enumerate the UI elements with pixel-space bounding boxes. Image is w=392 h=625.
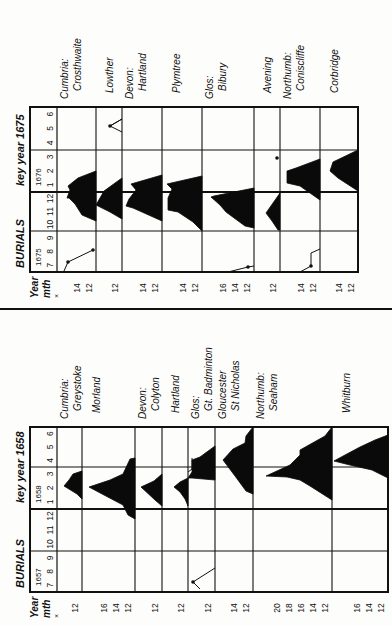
burial-area <box>67 171 96 221</box>
parish-label: Seaham <box>268 374 279 411</box>
month-label: 3 <box>45 471 55 476</box>
county-label: Cumbria: <box>59 58 70 99</box>
parish-label: Hartland <box>170 375 181 413</box>
burial-area <box>167 176 202 231</box>
parish-label: Corbridge <box>329 49 340 93</box>
y-tick-label: 12 <box>70 603 80 613</box>
y-tick-label: 14 <box>334 283 344 293</box>
y-tick-label: 14 <box>308 603 318 613</box>
month-label: 11 <box>45 525 55 534</box>
burial-area <box>330 150 358 191</box>
burials-title: BURIALS <box>14 218 26 268</box>
y-tick-label: 12 <box>241 603 251 613</box>
parish-label: Crosthwaite <box>72 38 83 91</box>
year-axis-label: Year <box>29 596 40 618</box>
burial-area <box>211 188 254 228</box>
y-tick-label: 12 <box>346 283 356 293</box>
y-tick-label: 14 <box>296 283 306 293</box>
parish-label: Avening <box>262 57 273 94</box>
month-label: 6 <box>45 431 55 436</box>
month-label: 7 <box>45 583 55 588</box>
y-tick-label: 12 <box>150 283 160 293</box>
panel-bottom: BURIALSkey year 165816577891011121658123… <box>14 347 388 618</box>
key-year-title: key year 1658 <box>14 431 26 503</box>
month-label: 10 <box>45 220 55 230</box>
data-point <box>275 156 279 160</box>
year-label: 1676 <box>34 168 43 186</box>
parish-label: Coniscliffe <box>295 44 306 91</box>
multiplier-label: × <box>53 294 60 298</box>
month-label: 9 <box>45 555 55 560</box>
y-tick-label: 12 <box>110 283 120 293</box>
burial-area <box>266 193 280 230</box>
burial-area <box>126 175 162 221</box>
y-tick-label: 12 <box>84 283 94 293</box>
y-tick-label: 16 <box>218 283 228 293</box>
county-label: Cumbria: <box>59 378 70 419</box>
panel-top: BURIALSkey year 167516757891011121676123… <box>14 38 358 298</box>
data-point <box>108 124 112 128</box>
parish-label: Plymtree <box>171 53 182 93</box>
y-tick-label: 12 <box>203 603 213 613</box>
burial-line <box>193 568 215 589</box>
parish-label: Hartland <box>137 53 148 91</box>
burial-area <box>223 427 253 494</box>
y-tick-label: 16 <box>296 603 306 613</box>
y-tick-label: 12 <box>123 603 133 613</box>
county-label: Northumb: <box>282 52 293 99</box>
parish-label: Lowther <box>104 57 115 93</box>
key-year-title: key year 1675 <box>14 114 26 186</box>
parish-label: Gt. Badminton <box>203 347 214 411</box>
y-tick-label: 20 <box>272 603 282 613</box>
month-label: 4 <box>45 458 55 463</box>
month-label: 2 <box>45 485 55 490</box>
burial-area <box>64 471 82 499</box>
y-tick-label: 16 <box>352 603 362 613</box>
y-tick-label: 12 <box>376 603 386 613</box>
year-label: 1657 <box>34 568 43 586</box>
month-label: 8 <box>45 249 55 254</box>
y-tick-label: 14 <box>178 283 188 293</box>
month-label: 8 <box>45 569 55 574</box>
month-label: 5 <box>45 126 55 131</box>
county-label: Northumb: <box>255 372 266 419</box>
month-label: 5 <box>45 444 55 449</box>
burial-area <box>287 159 320 200</box>
y-tick-label: 16 <box>99 603 109 613</box>
data-point <box>246 265 250 269</box>
county-label: Gloucester <box>217 370 228 419</box>
data-point <box>66 260 70 264</box>
county-label: Devon: <box>124 67 135 99</box>
burial-area <box>174 478 188 506</box>
year-label: 1658 <box>34 485 43 503</box>
burial-line <box>300 249 320 272</box>
y-tick-label: 14 <box>230 283 240 293</box>
burial-area <box>266 427 332 500</box>
y-tick-label: 12 <box>268 283 278 293</box>
month-label: 1 <box>45 182 55 187</box>
parish-label: Greystoke <box>72 365 83 411</box>
parish-label: Morland <box>91 376 102 413</box>
parish-label: Bibury <box>217 62 228 91</box>
month-axis-label: mth <box>41 600 52 618</box>
y-tick-label: 18 <box>284 603 294 613</box>
month-label: 9 <box>45 235 55 240</box>
month-axis-label: mth <box>41 280 52 298</box>
y-tick-label: 12 <box>176 603 186 613</box>
y-tick-label: 12 <box>242 283 252 293</box>
y-tick-label: 12 <box>320 603 330 613</box>
data-point <box>91 248 95 252</box>
burials-title: BURIALS <box>14 538 26 588</box>
year-label: 1675 <box>34 248 43 266</box>
parish-label: Whitburn <box>341 373 352 413</box>
burial-line <box>188 458 192 472</box>
parish-label: Colyton <box>150 377 161 411</box>
month-label: 11 <box>45 207 55 216</box>
y-tick-label: 14 <box>72 283 82 293</box>
county-label: Glos: <box>190 395 201 419</box>
year-axis-label: Year <box>29 276 40 298</box>
county-label: Glos: <box>204 75 215 99</box>
burials-chart: BURIALSkey year 167516757891011121676123… <box>0 0 392 625</box>
y-tick-label: 12 <box>190 283 200 293</box>
month-label: 2 <box>45 168 55 173</box>
